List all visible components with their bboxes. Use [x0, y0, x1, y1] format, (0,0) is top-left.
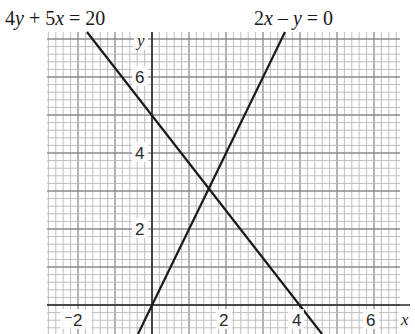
y-axis-label: y — [135, 31, 145, 50]
y-tick-4: 4 — [135, 144, 144, 163]
y-tick-2: 2 — [135, 220, 144, 239]
x-tick-4: 4 — [292, 311, 301, 330]
x-tick-6: 6 — [366, 311, 375, 330]
y-tick-6: 6 — [135, 68, 144, 87]
x-tick-2: 2 — [219, 311, 228, 330]
equation-label-2: 2x – y = 0 — [254, 7, 333, 30]
x-tick-neg2: ⁻2 — [64, 311, 82, 330]
equation-label-1: 4y + 5x = 20 — [5, 7, 105, 30]
graph-figure: ⁻2 2 4 6 x 2 4 6 y 4y + 5x = 20 2x – y =… — [0, 0, 415, 334]
grid — [47, 32, 400, 334]
x-axis-label: x — [400, 310, 409, 329]
